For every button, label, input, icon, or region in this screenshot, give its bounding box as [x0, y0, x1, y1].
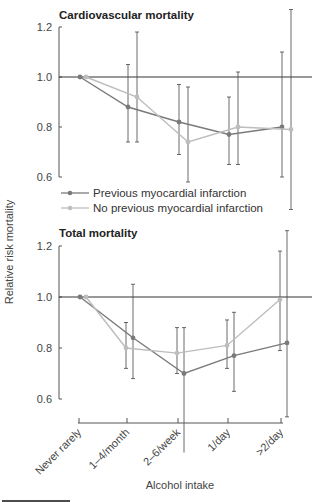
- data-point: [289, 127, 294, 132]
- data-point: [126, 105, 131, 110]
- legend-marker-previous: [68, 191, 73, 196]
- y-tick-label: 1.0: [37, 291, 52, 303]
- series-line: [86, 297, 280, 353]
- legend: Previous myocardial infarction No previo…: [61, 187, 263, 214]
- data-point: [78, 75, 83, 80]
- data-point: [182, 371, 187, 376]
- x-axis: Never rarely1–4/month2–6/week1/day>2/day: [33, 418, 286, 477]
- legend-marker-no-previous: [68, 206, 73, 211]
- x-tick-label: Never rarely: [33, 426, 84, 477]
- y-tick-label: 1.2: [37, 21, 52, 33]
- series-line: [80, 77, 282, 135]
- data-point: [285, 341, 290, 346]
- x-tick-label: 1–4/month: [86, 426, 131, 471]
- x-tick-label: >2/day: [253, 426, 285, 458]
- data-point: [225, 343, 230, 348]
- top-y-axis: 0.60.81.01.2: [37, 21, 62, 183]
- data-point: [186, 140, 191, 145]
- legend-label-no-previous: No previous myocardial infarction: [93, 202, 263, 214]
- data-point: [84, 295, 89, 300]
- data-point: [227, 132, 232, 137]
- data-point: [175, 351, 180, 356]
- data-point: [78, 295, 83, 300]
- relative-risk-chart: Cardiovascular mortality 0.60.81.01.2 Pr…: [0, 0, 320, 502]
- y-tick-label: 0.6: [37, 171, 52, 183]
- top-plot-area: [59, 10, 312, 210]
- legend-label-previous: Previous myocardial infarction: [93, 187, 246, 199]
- data-point: [278, 297, 283, 302]
- y-tick-label: 1.0: [37, 71, 52, 83]
- data-point: [236, 125, 241, 130]
- data-point: [131, 335, 136, 340]
- data-point: [84, 75, 89, 80]
- cardiovascular-mortality-panel: Cardiovascular mortality 0.60.81.01.2: [37, 9, 312, 210]
- data-point: [124, 346, 129, 351]
- y-tick-label: 0.6: [37, 393, 52, 405]
- bottom-panel-title: Total mortality: [59, 227, 138, 239]
- data-point: [232, 353, 237, 358]
- x-axis-title: Alcohol intake: [146, 479, 215, 491]
- total-mortality-panel: Total mortality 0.60.81.01.2: [37, 227, 312, 453]
- data-point: [177, 120, 182, 125]
- series-line: [80, 297, 287, 374]
- data-point: [135, 95, 140, 100]
- x-tick-label: 1/day: [205, 426, 233, 454]
- bottom-y-axis: 0.60.81.01.2: [37, 240, 62, 405]
- bottom-plot-area: [59, 231, 312, 453]
- top-panel-title: Cardiovascular mortality: [59, 9, 194, 21]
- y-tick-label: 0.8: [37, 342, 52, 354]
- y-tick-label: 0.8: [37, 121, 52, 133]
- y-axis-title: Relative risk mortality: [3, 199, 15, 304]
- x-tick-label: 2–6/week: [141, 426, 183, 468]
- y-tick-label: 1.2: [37, 240, 52, 252]
